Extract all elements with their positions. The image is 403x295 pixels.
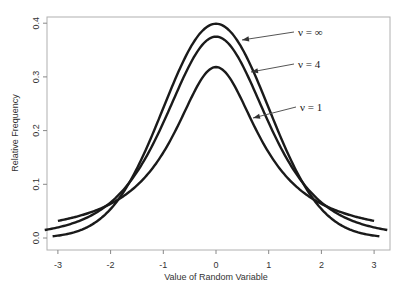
x-tick-label: 2 bbox=[319, 260, 324, 270]
density-curve bbox=[58, 67, 374, 221]
y-tick-label: 0.2 bbox=[31, 124, 41, 137]
x-axis: -3-2-10123 bbox=[54, 250, 377, 270]
x-tick-label: -3 bbox=[54, 260, 62, 270]
density-curves bbox=[45, 24, 388, 236]
annotation-label: ν = ∞ bbox=[298, 26, 323, 38]
annotation-arrow bbox=[242, 32, 294, 40]
t-distribution-chart: 0.00.10.20.30.4 -3-2-10123 ν = ∞ν = 4ν =… bbox=[0, 0, 403, 295]
y-axis: 0.00.10.20.30.4 bbox=[31, 17, 47, 244]
annotation-label: ν = 1 bbox=[300, 101, 322, 113]
x-tick-label: -2 bbox=[107, 260, 115, 270]
annotation-label: ν = 4 bbox=[298, 58, 321, 70]
x-axis-title: Value of Random Variable bbox=[164, 272, 268, 282]
x-tick-label: -1 bbox=[159, 260, 167, 270]
arrowhead-icon bbox=[242, 36, 249, 41]
y-tick-label: 0.1 bbox=[31, 178, 41, 191]
x-tick-label: 1 bbox=[266, 260, 271, 270]
density-curve bbox=[53, 24, 380, 236]
y-axis-title: Relative Frequency bbox=[10, 94, 20, 172]
y-tick-label: 0.3 bbox=[31, 71, 41, 84]
arrowhead-icon bbox=[253, 114, 260, 119]
x-tick-label: 3 bbox=[372, 260, 377, 270]
density-curve bbox=[45, 37, 388, 230]
y-tick-label: 0.4 bbox=[31, 17, 41, 30]
y-tick-label: 0.0 bbox=[31, 232, 41, 245]
annotations: ν = ∞ν = 4ν = 1 bbox=[242, 26, 323, 119]
x-tick-label: 0 bbox=[213, 260, 218, 270]
